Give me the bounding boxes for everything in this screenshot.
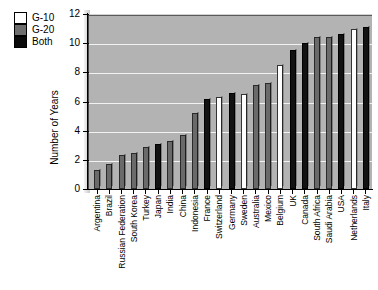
x-tick-slot <box>164 189 176 194</box>
bar-slot <box>152 14 164 189</box>
bar-slot <box>348 14 360 189</box>
x-label-slot: Mexico <box>262 195 274 290</box>
bar-slot <box>287 14 299 189</box>
x-tick-label: Switzerland <box>215 195 223 239</box>
x-tick-slot <box>274 189 286 194</box>
y-tick-0 <box>83 189 89 190</box>
x-tick-slot <box>348 189 360 194</box>
x-tick-label: Brazil <box>105 195 113 216</box>
x-label-slot: France <box>201 195 213 290</box>
x-tick <box>292 189 293 194</box>
x-tick-slot <box>201 189 213 194</box>
x-tick <box>341 189 342 194</box>
x-tick <box>268 189 269 194</box>
bar-slot <box>103 14 115 189</box>
bar[interactable] <box>351 29 357 189</box>
bar[interactable] <box>155 144 161 189</box>
x-label-slot: Australia <box>250 195 262 290</box>
x-label-slot: USA <box>335 195 347 290</box>
x-tick-label: China <box>179 195 187 217</box>
x-tick-label: Belgium <box>276 195 284 226</box>
x-tick-label: Australia <box>252 195 260 228</box>
y-tick-label-4: 4 <box>14 125 80 136</box>
bar[interactable] <box>326 37 332 189</box>
x-tick-label: Turkey <box>142 195 150 221</box>
x-tick-label: Germany <box>228 195 236 230</box>
x-tick-label: Indonesia <box>191 195 199 232</box>
y-tick-label-8: 8 <box>14 66 80 77</box>
x-tick <box>158 189 159 194</box>
bar[interactable] <box>363 27 369 189</box>
x-tick <box>121 189 122 194</box>
x-tick-slot <box>360 189 372 194</box>
bar[interactable] <box>131 153 137 189</box>
x-tick-label: South Korea <box>130 195 138 242</box>
x-label-slot: Indonesia <box>189 195 201 290</box>
x-label-slot: South Korea <box>128 195 140 290</box>
bar[interactable] <box>290 50 296 189</box>
bar[interactable] <box>94 170 100 189</box>
x-tick-slot <box>91 189 103 194</box>
x-tick <box>329 189 330 194</box>
bar[interactable] <box>253 85 259 189</box>
bar[interactable] <box>302 43 308 189</box>
x-tick-label: Russian Federation <box>118 195 126 269</box>
x-tick-slot <box>250 189 262 194</box>
x-tick <box>219 189 220 194</box>
x-tick <box>207 189 208 194</box>
y-tick-label-0: 0 <box>14 183 80 194</box>
y-tick-label-6: 6 <box>14 96 80 107</box>
bar[interactable] <box>277 65 283 189</box>
bar-slot <box>323 14 335 189</box>
x-tick <box>133 189 134 194</box>
bar[interactable] <box>265 83 271 189</box>
x-tick <box>170 189 171 194</box>
bar[interactable] <box>143 147 149 189</box>
x-tick <box>194 189 195 194</box>
bar[interactable] <box>119 155 125 189</box>
x-tick-label: UK <box>289 195 297 207</box>
x-tick-label: Japan <box>154 195 162 218</box>
x-label-slot: China <box>177 195 189 290</box>
bar[interactable] <box>229 93 235 189</box>
bar[interactable] <box>216 97 222 189</box>
bar[interactable] <box>338 34 344 189</box>
bar[interactable] <box>180 135 186 189</box>
x-tick-slot <box>177 189 189 194</box>
x-tick-label: Canada <box>301 195 309 225</box>
bar-slot <box>213 14 225 189</box>
bar-slot <box>177 14 189 189</box>
bar-slot <box>360 14 372 189</box>
bar[interactable] <box>314 37 320 189</box>
x-tick-label: France <box>203 195 211 221</box>
x-tick-label: India <box>166 195 174 213</box>
bar-slot <box>274 14 286 189</box>
x-tick-label: Sweden <box>240 195 248 226</box>
x-label-slot: UK <box>287 195 299 290</box>
x-label-slot: Brazil <box>103 195 115 290</box>
x-label-slot: Turkey <box>140 195 152 290</box>
bar[interactable] <box>106 164 112 189</box>
y-tick-2 <box>83 160 89 161</box>
y-tick-10 <box>83 43 89 44</box>
x-label-slot: Russian Federation <box>115 195 127 290</box>
bar[interactable] <box>204 99 210 189</box>
y-tick-label-2: 2 <box>14 154 80 165</box>
x-tick <box>97 189 98 194</box>
x-tick-slot <box>323 189 335 194</box>
bar-slot <box>238 14 250 189</box>
x-tick <box>353 189 354 194</box>
bar[interactable] <box>241 94 247 189</box>
x-label-slot: Netherlands <box>348 195 360 290</box>
bar[interactable] <box>167 141 173 189</box>
x-tick-slot <box>335 189 347 194</box>
bar-series <box>88 14 372 189</box>
x-tick-slot <box>287 189 299 194</box>
bar[interactable] <box>192 113 198 189</box>
x-axis-labels: ArgentinaBrazilRussian FederationSouth K… <box>88 195 372 290</box>
x-tick <box>182 189 183 194</box>
x-label-slot: Canada <box>299 195 311 290</box>
bar-slot <box>91 14 103 189</box>
x-label-slot: Japan <box>152 195 164 290</box>
x-tick <box>280 189 281 194</box>
